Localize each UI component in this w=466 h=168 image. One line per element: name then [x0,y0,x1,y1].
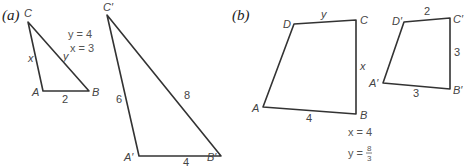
vertex-a: A [251,102,259,114]
vertex-a-prime: A′ [368,77,379,89]
quadrilateral-abcd-prime [383,18,450,89]
side-cb-length: x [359,60,366,72]
vertex-a-prime: A′ [123,151,134,163]
side-dc-prime-length: 2 [424,5,430,17]
solution-y: y = 4 [68,28,92,40]
solution-y-denominator: 3 [367,154,372,163]
solution-x: x = 3 [70,42,94,54]
side-ac-prime-length: 6 [116,93,122,105]
vertex-c: C [360,14,368,26]
side-cb-prime-length: 3 [454,46,460,58]
side-ab-prime-length: 4 [183,156,189,168]
vertex-a: A [31,86,39,98]
vertex-c: C [24,7,32,19]
part-a-label: (a) [2,7,20,24]
side-ab-length: 2 [62,93,68,105]
vertex-b: B [92,86,99,98]
vertex-d-prime: D′ [392,15,403,27]
side-ac-length: x [27,52,34,64]
side-bc-prime-length: 8 [184,89,190,101]
vertex-b-prime: B′ [207,151,217,163]
vertex-d: D [283,18,291,30]
triangle-abc-prime [107,15,221,156]
side-dc-length: y [320,8,328,20]
side-ab-length: 4 [306,112,312,124]
vertex-b-prime: B′ [453,84,463,96]
quadrilateral-abcd [263,20,356,114]
part-b-label: (b) [232,7,250,24]
solution-y-prefix: y = [348,147,363,159]
vertex-b: B [360,109,367,121]
side-ab-prime-length: 3 [413,87,419,99]
side-bc-length: y [62,50,70,62]
vertex-c-prime: C′ [103,1,114,13]
similar-figures-diagram: (a) C A B 2 x y y = 4 x = 3 C′ A′ B′ 6 8… [0,0,466,168]
solution-x: x = 4 [348,126,372,138]
solution-y-numerator: 8 [367,144,372,153]
vertex-c-prime: C′ [453,13,464,25]
